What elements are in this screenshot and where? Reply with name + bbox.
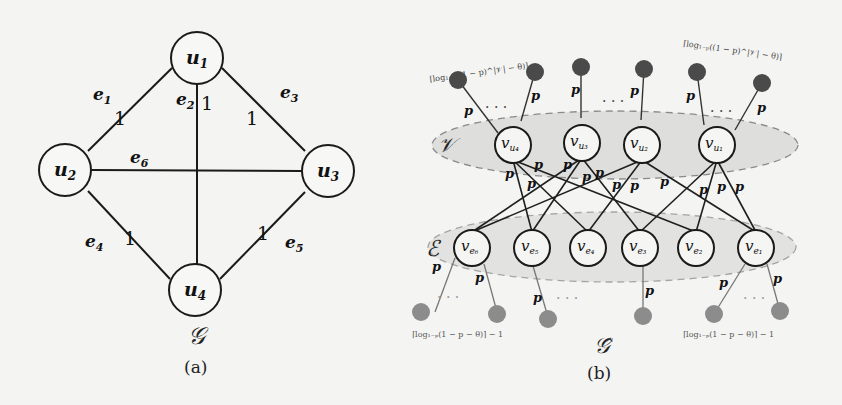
svg-text:. . .: . . . (710, 99, 732, 115)
svg-text:p: p (757, 100, 766, 115)
figure-a-graph (88, 68, 305, 279)
svg-text:p: p (630, 83, 639, 98)
svg-text:p: p (699, 182, 708, 197)
edge-label-e1: e1 (93, 84, 111, 107)
svg-text:p: p (531, 88, 540, 103)
svg-text:p: p (645, 283, 654, 298)
edge-e6 (91, 170, 302, 171)
svg-text:p: p (773, 271, 782, 286)
svg-text:p: p (464, 103, 473, 118)
svg-text:p: p (719, 275, 728, 290)
svg-text:p: p (595, 165, 604, 180)
svg-text:p: p (582, 169, 591, 184)
edge-label-e4: e4 (85, 231, 103, 254)
top-leaves (449, 58, 771, 92)
bottom-leaves (412, 302, 789, 328)
svg-text:p: p (735, 179, 744, 194)
top-annotation-left: ⌈log₁₋ₚ((1 − p)^|𝒱| − θ)⌉ (429, 61, 529, 84)
graph-symbol-g: 𝒢 (188, 322, 209, 350)
vertex-set-ellipse (432, 111, 798, 179)
svg-text:p: p (563, 157, 572, 172)
weight-e1: 1 (114, 107, 126, 129)
svg-text:p: p (612, 177, 621, 192)
caption-a: (a) (184, 357, 207, 377)
caption-b: (b) (587, 363, 611, 383)
figure-canvas: u1 u2 u3 u4 e1 e2 e3 e4 e5 e6 1 1 1 1 1 … (0, 0, 842, 405)
svg-text:p: p (475, 270, 484, 285)
svg-text:. . .: . . . (743, 286, 765, 302)
weight-e5: 1 (257, 222, 269, 244)
svg-text:p: p (571, 82, 580, 97)
svg-text:p: p (533, 290, 542, 305)
weight-e4: 1 (124, 227, 136, 249)
graph-symbol-g-hat: 𝒢̂ (594, 333, 613, 358)
svg-text:p: p (527, 176, 536, 191)
svg-text:. . .: . . . (602, 89, 624, 105)
svg-text:p: p (660, 174, 669, 189)
svg-text:p: p (717, 179, 726, 194)
svg-text:p: p (686, 88, 695, 103)
svg-text:p: p (630, 178, 639, 193)
svg-text:. . .: . . . (556, 286, 578, 302)
edge-e3 (222, 68, 305, 151)
top-annotation-right: ⌈log₁₋ₚ((1 − p)^|𝒱| − θ)⌉ (683, 39, 783, 62)
svg-text:. . .: . . . (485, 95, 507, 111)
edge-e1 (88, 68, 172, 151)
svg-text:. . .: . . . (437, 285, 459, 301)
edge-label-e6: e6 (130, 147, 149, 170)
edge-label-e5: e5 (285, 232, 303, 255)
edge-label-e3: e3 (280, 82, 299, 105)
svg-text:p: p (505, 166, 514, 181)
weight-e3: 1 (246, 107, 258, 129)
edge-label-e2: e2 (176, 89, 195, 112)
bottom-annotation-left: ⌈log₁₋ₚ(1 − p − θ)⌉ − 1 (412, 330, 503, 339)
bottom-annotation-right: ⌈log₁₋ₚ(1 − p − θ)⌉ − 1 (683, 330, 774, 339)
svg-text:p: p (432, 259, 441, 274)
svg-text:p: p (534, 157, 543, 172)
weight-e2: 1 (201, 92, 213, 114)
